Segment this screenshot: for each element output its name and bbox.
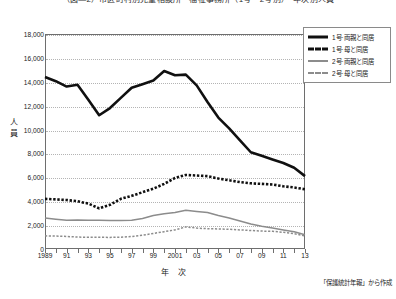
series-line: [45, 175, 305, 208]
legend-item-label: 1号·母と同居: [332, 45, 368, 54]
legend-swatch-icon: [308, 32, 328, 42]
y-axis-tick-label: 14,000: [2, 78, 44, 85]
legend-swatch-icon: [308, 56, 328, 66]
x-axis-tick-mark: [121, 249, 122, 253]
legend-item[interactable]: 1号·母と同居: [308, 43, 387, 55]
y-axis-tick-label: 8,000: [2, 150, 44, 157]
x-axis-tick-label: 09: [258, 252, 265, 259]
y-axis-label-text: 人員: [10, 118, 18, 138]
x-axis-tick-mark: [99, 249, 100, 253]
y-axis-tick-label: 2,000: [2, 222, 44, 229]
legend-item[interactable]: 2号·両親と同居: [308, 55, 387, 67]
x-axis-tick-mark: [251, 249, 252, 253]
y-axis-tick-label: 18,000: [2, 31, 44, 38]
legend-swatch-icon: [308, 68, 328, 78]
legend-item-label: 2号·母と同居: [332, 69, 368, 78]
series-line: [45, 227, 305, 238]
x-axis-tick-mark: [208, 249, 209, 253]
y-axis-label: 人員: [8, 117, 20, 139]
x-axis-tick-mark: [56, 249, 57, 253]
chart-title: （図―2）市区町村別児童相談所・福祉事務所（1号・2号別）・年次別人員: [0, 0, 396, 4]
chart-legend: 1号·両親と同居1号·母と同居2号·両親と同居2号·母と同居: [303, 27, 391, 83]
source-note: 「保護統計年報」から作成: [320, 278, 392, 287]
chart-page: （図―2）市区町村別児童相談所・福祉事務所（1号・2号別）・年次別人員 18,0…: [0, 0, 396, 299]
series-layer: [45, 34, 305, 249]
x-axis-tick-label: 1989: [38, 252, 53, 259]
legend-swatch-icon: [308, 44, 328, 54]
legend-item-label: 1号·両親と同居: [332, 33, 374, 42]
x-axis-tick-label: 99: [150, 252, 157, 259]
x-axis-tick-mark: [164, 249, 165, 253]
legend-item-label: 2号·両親と同居: [332, 57, 374, 66]
x-axis-tick-mark: [229, 249, 230, 253]
y-axis-tick-label: 12,000: [2, 102, 44, 109]
y-axis-tick-label: 16,000: [2, 54, 44, 61]
x-axis-tick-mark: [143, 249, 144, 253]
x-axis-tick-mark: [78, 249, 79, 253]
x-axis-tick-label: 2001: [168, 252, 183, 259]
x-axis-tick-label: 97: [128, 252, 135, 259]
x-axis-tick-label: 91: [63, 252, 70, 259]
x-axis-tick-label: 13: [301, 252, 308, 259]
x-axis-tick-label: 07: [236, 252, 243, 259]
x-axis-tick-label: 95: [106, 252, 113, 259]
y-axis-tick-label: 4,000: [2, 198, 44, 205]
x-axis-tick-mark: [186, 249, 187, 253]
series-line: [45, 71, 305, 176]
y-axis-tick-label: 6,000: [2, 174, 44, 181]
legend-item[interactable]: 2号·母と同居: [308, 67, 387, 79]
x-axis-tick-mark: [294, 249, 295, 253]
x-axis-tick-label: 05: [215, 252, 222, 259]
legend-item[interactable]: 1号·両親と同居: [308, 31, 387, 43]
x-axis-tick-mark: [273, 249, 274, 253]
x-axis-label: 年 次: [0, 266, 350, 277]
x-axis-tick-label: 93: [85, 252, 92, 259]
x-axis-tick-label: 03: [193, 252, 200, 259]
x-axis-tick-label: 11: [280, 252, 287, 259]
